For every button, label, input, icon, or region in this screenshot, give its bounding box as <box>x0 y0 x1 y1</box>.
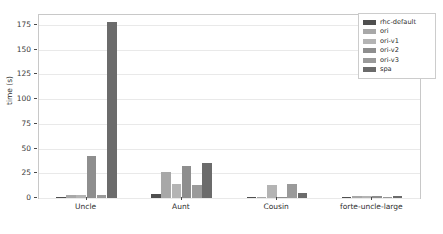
y-tick-mark <box>34 123 37 124</box>
legend-item[interactable]: ori-v3 <box>363 56 431 65</box>
x-tick-mark <box>371 197 372 200</box>
bar <box>192 185 202 198</box>
y-tick-mark <box>34 172 37 173</box>
x-tick-mark <box>86 197 87 200</box>
legend-item[interactable]: rhc-default <box>363 18 431 27</box>
legend-label: rhc-default <box>380 18 416 27</box>
y-tick-mark <box>34 73 37 74</box>
y-tick-label: 175 <box>1 19 31 28</box>
gridline <box>39 99 420 100</box>
bar <box>352 196 362 198</box>
y-tick-label: 150 <box>1 44 31 53</box>
bar <box>151 194 161 198</box>
y-tick-label: 50 <box>1 143 31 152</box>
bar <box>76 195 86 198</box>
legend-swatch-icon <box>363 20 376 25</box>
bar <box>182 166 192 198</box>
y-tick-label: 0 <box>1 193 31 202</box>
x-tick-mark <box>276 197 277 200</box>
bar <box>107 22 117 198</box>
bar <box>161 172 171 198</box>
y-tick-mark <box>34 98 37 99</box>
legend-label: ori-v2 <box>380 46 399 55</box>
y-tick-label: 100 <box>1 94 31 103</box>
bar <box>393 196 403 198</box>
legend-label: spa <box>380 65 392 74</box>
bar <box>277 197 287 198</box>
legend-swatch-icon <box>363 39 376 44</box>
x-tick-label: forte-uncle-large <box>340 202 403 211</box>
x-tick-label: Uncle <box>75 202 96 211</box>
y-axis-tick-labels: 0255075100125150175 <box>0 14 34 199</box>
bar <box>267 185 277 198</box>
bar <box>202 163 212 198</box>
y-tick-mark <box>34 197 37 198</box>
bar <box>298 193 308 198</box>
y-tick-label: 25 <box>1 168 31 177</box>
bar <box>56 197 66 198</box>
legend-swatch-icon <box>363 29 376 34</box>
bar <box>172 184 182 198</box>
legend-item[interactable]: spa <box>363 65 431 74</box>
gridline <box>39 149 420 150</box>
legend-item[interactable]: ori-v1 <box>363 37 431 46</box>
bar <box>66 195 76 198</box>
y-tick-mark <box>34 49 37 50</box>
legend-label: ori <box>380 27 389 36</box>
bar <box>87 156 97 198</box>
bar <box>97 195 107 198</box>
bar <box>362 196 372 198</box>
y-tick-label: 125 <box>1 69 31 78</box>
x-tick-label: Aunt <box>172 202 190 211</box>
legend-label: ori-v1 <box>380 37 399 46</box>
legend-item[interactable]: ori <box>363 27 431 36</box>
legend-swatch-icon <box>363 48 376 53</box>
bar <box>257 197 267 198</box>
y-tick-mark <box>34 24 37 25</box>
legend-swatch-icon <box>363 67 376 72</box>
legend-item[interactable]: ori-v2 <box>363 46 431 55</box>
bar <box>372 196 382 198</box>
legend-label: ori-v3 <box>380 56 399 65</box>
gridline <box>39 198 420 199</box>
y-tick-label: 75 <box>1 118 31 127</box>
bar <box>383 197 393 198</box>
x-axis-tick-labels: UncleAuntCousinforte-uncle-large <box>38 200 421 218</box>
x-tick-label: Cousin <box>263 202 288 211</box>
y-tick-mark <box>34 148 37 149</box>
legend: rhc-defaultoriori-v1ori-v2ori-v3spa <box>358 13 436 79</box>
bar <box>287 184 297 198</box>
bar <box>247 197 257 198</box>
x-tick-mark <box>181 197 182 200</box>
bar-chart-figure: time (s) 0255075100125150175 UncleAuntCo… <box>0 0 443 234</box>
legend-swatch-icon <box>363 58 376 63</box>
gridline <box>39 124 420 125</box>
bar <box>342 197 352 198</box>
